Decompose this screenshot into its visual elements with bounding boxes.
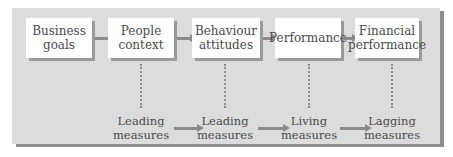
- dotted-connector: [308, 64, 310, 108]
- stage-label: Business: [32, 24, 86, 38]
- stage-label: attitudes: [199, 38, 253, 52]
- measure-label: Leading: [117, 114, 164, 128]
- stage-performance: Performance: [275, 18, 341, 58]
- stage-financial-performance: Financialperformance: [355, 18, 419, 58]
- dotted-connector: [224, 64, 226, 108]
- dotted-connector: [391, 64, 393, 108]
- dotted-connector: [140, 64, 142, 108]
- stage-label: context: [118, 38, 163, 52]
- measure-leading-1: Leadingmeasures: [106, 114, 176, 142]
- stage-label: Behaviour: [195, 24, 257, 38]
- measure-label: Leading: [201, 114, 248, 128]
- arrow-icon: [95, 37, 109, 40]
- measure-label: measures: [281, 128, 337, 142]
- stage-label: Performance: [269, 31, 347, 45]
- stage-business-goals: Businessgoals: [26, 18, 92, 58]
- stage-behaviour-attitudes: Behaviourattitudes: [192, 18, 260, 58]
- measure-label: Living: [291, 114, 327, 128]
- measure-lagging: Laggingmeasures: [357, 114, 427, 142]
- stage-label: People: [121, 24, 161, 38]
- measure-label: Lagging: [368, 114, 416, 128]
- measure-living: Livingmeasures: [274, 114, 344, 142]
- stage-label: performance: [348, 38, 426, 52]
- measure-label: measures: [113, 128, 169, 142]
- stage-label: goals: [43, 38, 75, 52]
- stage-people-context: Peoplecontext: [108, 18, 174, 58]
- measure-leading-2: Leadingmeasures: [190, 114, 260, 142]
- measure-label: measures: [197, 128, 253, 142]
- stage-label: Financial: [359, 24, 415, 38]
- diagram-panel: Businessgoals Peoplecontext Behaviouratt…: [12, 8, 440, 144]
- measure-label: measures: [364, 128, 420, 142]
- arrow-icon: [177, 37, 191, 40]
